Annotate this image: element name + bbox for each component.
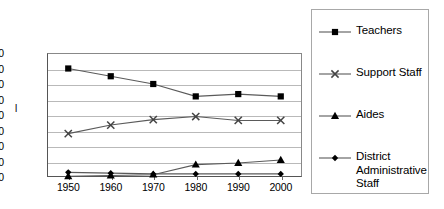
legend-label: Teachers	[354, 24, 402, 38]
x-axis-tick-label: 1990	[218, 182, 258, 193]
y-axis-tick-label: 30	[0, 126, 4, 137]
chart-legend: TeachersSupport StaffAidesDistrict Admin…	[311, 9, 429, 194]
diamond-marker-icon	[332, 155, 338, 161]
x-axis-tick-label: 1950	[48, 182, 88, 193]
y-axis-tick-label: 10	[0, 157, 4, 168]
series-layer	[0, 0, 310, 209]
y-axis-tick-label: 50	[0, 95, 4, 106]
diamond-marker-icon	[65, 169, 71, 175]
square-marker-icon	[65, 65, 71, 71]
line-chart: l 01020304050607080195019601970198019902…	[0, 0, 310, 209]
series-teachers	[65, 65, 284, 99]
series-aides	[64, 156, 285, 179]
legend-entry-district-administrative-staff[interactable]: District Administrative Staff	[312, 150, 428, 191]
square-marker-icon	[278, 93, 284, 99]
triangle-marker-icon	[316, 109, 354, 123]
x-marker-icon	[316, 67, 354, 81]
series-line	[68, 172, 281, 174]
legend-label: Support Staff	[354, 66, 422, 80]
legend-label: Aides	[354, 108, 384, 122]
triangle-marker-icon	[277, 156, 285, 163]
series-support-staff	[65, 113, 285, 137]
diamond-marker-icon	[278, 171, 284, 177]
x-axis-tick-label: 1970	[133, 182, 173, 193]
legend-label: District Administrative Staff	[354, 150, 428, 191]
y-axis-tick-label: 70	[0, 64, 4, 75]
diamond-marker-icon	[316, 151, 354, 165]
y-axis-tick-label: 40	[0, 110, 4, 121]
legend-entry-support-staff[interactable]: Support Staff	[312, 66, 428, 81]
diamond-marker-icon	[235, 171, 241, 177]
x-axis-tick-label: 1980	[176, 182, 216, 193]
square-marker-icon	[108, 73, 114, 79]
legend-entry-aides[interactable]: Aides	[312, 108, 428, 123]
square-marker-icon	[332, 29, 338, 35]
y-axis-tick-label: 80	[0, 48, 4, 59]
x-axis-tick-label: 1960	[91, 182, 131, 193]
chart-screenshot: l 01020304050607080195019601970198019902…	[0, 0, 444, 209]
y-axis-tick-label: 0	[0, 172, 4, 183]
series-line	[68, 69, 281, 97]
square-marker-icon	[235, 91, 241, 97]
x-axis-tick-label: 2000	[261, 182, 301, 193]
square-marker-icon	[316, 25, 354, 39]
y-axis-tick-label: 20	[0, 141, 4, 152]
legend-entry-teachers[interactable]: Teachers	[312, 24, 428, 39]
diamond-marker-icon	[193, 171, 199, 177]
y-axis-tick-label: 60	[0, 79, 4, 90]
square-marker-icon	[150, 81, 156, 87]
triangle-marker-icon	[331, 112, 339, 119]
square-marker-icon	[193, 93, 199, 99]
series-line	[68, 117, 281, 134]
